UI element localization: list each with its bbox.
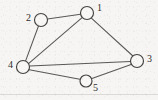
node-3-circle[interactable] bbox=[131, 55, 144, 68]
node-2-label: 2 bbox=[26, 12, 31, 23]
graph-figure: 1 2 3 4 5 bbox=[0, 0, 158, 100]
node-1-label: 1 bbox=[97, 2, 102, 13]
edge-4-5 bbox=[29, 70, 80, 80]
edge-4-3 bbox=[30, 62, 131, 66]
edge-5-3 bbox=[92, 65, 131, 79]
node-group: 1 2 3 4 5 bbox=[8, 2, 152, 93]
node-5-label: 5 bbox=[93, 82, 98, 93]
edge-1-3 bbox=[91, 18, 132, 56]
node-4-circle[interactable] bbox=[17, 61, 30, 74]
graph-canvas: 1 2 3 4 5 bbox=[0, 0, 158, 100]
node-5-circle[interactable] bbox=[80, 75, 92, 87]
node-2[interactable]: 2 bbox=[26, 12, 48, 26]
edge-2-1 bbox=[47, 14, 80, 19]
node-3[interactable]: 3 bbox=[131, 53, 153, 67]
node-2-circle[interactable] bbox=[35, 14, 48, 27]
node-1[interactable]: 1 bbox=[81, 2, 103, 19]
node-4-label: 4 bbox=[8, 59, 13, 70]
node-4[interactable]: 4 bbox=[8, 59, 30, 73]
node-1-circle[interactable] bbox=[81, 7, 94, 20]
edge-2-4 bbox=[26, 26, 39, 60]
node-3-label: 3 bbox=[147, 53, 152, 64]
